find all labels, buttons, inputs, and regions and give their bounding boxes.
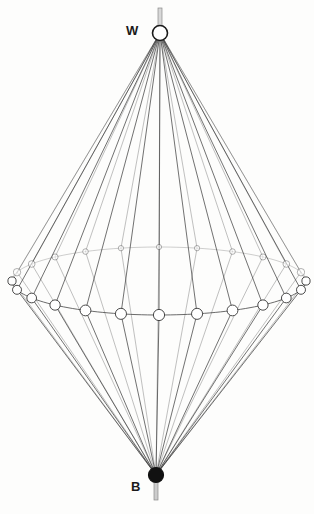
figure-canvas: W B: [0, 0, 314, 514]
bottom-pole-label: B: [131, 480, 140, 493]
globe-wireframe-svg: [0, 0, 314, 514]
top-pole-label: W: [126, 24, 138, 37]
meridians-front-group: [17, 33, 301, 475]
